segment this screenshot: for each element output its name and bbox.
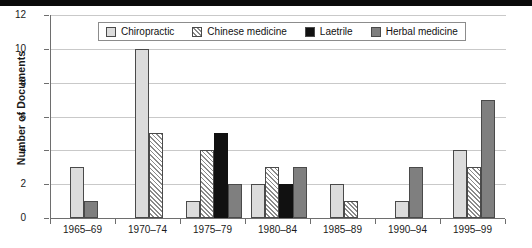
y-axis-tick-mark [44, 150, 49, 151]
bar-group [116, 15, 181, 218]
bar-herbal-medicine-1995–99 [481, 100, 495, 218]
bar-chinese-medicine-1975–79 [200, 150, 214, 218]
legend-label: Chiropractic [121, 26, 174, 37]
y-axis-tick-label: 10 [0, 43, 26, 54]
y-axis-tick-label: 12 [0, 9, 26, 20]
legend-swatch-icon [371, 27, 381, 37]
bar-chinese-medicine-1970–74 [149, 133, 163, 218]
bar-chiropractic-1975–79 [186, 201, 200, 218]
y-axis-tick-mark [44, 49, 49, 50]
legend-label: Laetrile [320, 26, 353, 37]
legend-swatch-icon [305, 27, 315, 37]
bar-chart: Number of Documents 024681012 1965–69197… [0, 6, 532, 248]
y-axis-tick-mark [44, 15, 49, 16]
bar-laetrile-1975–79 [214, 133, 228, 218]
bar-chiropractic-1970–74 [135, 49, 149, 218]
y-axis-tick-mark [44, 184, 49, 185]
legend-item-herbal-medicine[interactable]: Herbal medicine [371, 26, 458, 37]
bar-group [376, 15, 441, 218]
bar-laetrile-1980–84 [279, 184, 293, 218]
bar-chiropractic-1990–94 [395, 201, 409, 218]
bar-chiropractic-1980–84 [251, 184, 265, 218]
legend-item-chinese-medicine[interactable]: Chinese medicine [192, 26, 287, 37]
bar-herbal-medicine-1975–79 [228, 184, 242, 218]
legend-label: Chinese medicine [207, 26, 287, 37]
plot-area [50, 15, 505, 219]
bar-herbal-medicine-1990–94 [409, 167, 423, 218]
bar-group [441, 15, 506, 218]
y-axis-tick-label: 6 [0, 111, 26, 122]
bar-chiropractic-1985–89 [330, 184, 344, 218]
y-axis-tick-label: 8 [0, 77, 26, 88]
bar-group [181, 15, 246, 218]
legend-swatch-icon [192, 27, 202, 37]
bar-chinese-medicine-1985–89 [344, 201, 358, 218]
legend-label: Herbal medicine [386, 26, 458, 37]
legend-item-chiropractic[interactable]: Chiropractic [106, 26, 174, 37]
bar-chiropractic-1965–69 [70, 167, 84, 218]
y-axis-tick-mark [44, 83, 49, 84]
bar-chiropractic-1995–99 [453, 150, 467, 218]
legend-item-laetrile[interactable]: Laetrile [305, 26, 353, 37]
bar-group [246, 15, 311, 218]
legend-swatch-icon [106, 27, 116, 37]
y-axis-tick-mark [44, 117, 49, 118]
bar-herbal-medicine-1965–69 [84, 201, 98, 218]
y-axis-title: Number of Documents [15, 33, 27, 183]
y-axis-tick-label: 2 [0, 178, 26, 189]
bar-chinese-medicine-1980–84 [265, 167, 279, 218]
y-axis-tick-label: 4 [0, 144, 26, 155]
y-axis-tick-label: 0 [0, 212, 26, 223]
y-axis-tick-mark [44, 218, 49, 219]
bar-group [51, 15, 116, 218]
bar-chinese-medicine-1995–99 [467, 167, 481, 218]
bar-group [311, 15, 376, 218]
chart-legend: ChiropracticChinese medicineLaetrileHerb… [98, 22, 466, 41]
bar-herbal-medicine-1980–84 [293, 167, 307, 218]
x-axis-tick-label: 1995–99 [433, 224, 513, 235]
